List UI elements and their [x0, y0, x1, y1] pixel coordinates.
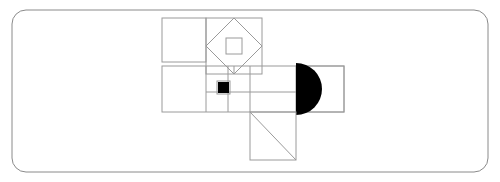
black-half-disc [296, 63, 322, 115]
geometric-composition-figure [0, 0, 500, 182]
black-filled-square [218, 82, 229, 93]
screenshot-canvas [0, 0, 500, 182]
top-left-rectangle [162, 18, 206, 62]
diamond-center-small-square [226, 38, 242, 54]
bottom-square-diagonal [250, 112, 296, 160]
